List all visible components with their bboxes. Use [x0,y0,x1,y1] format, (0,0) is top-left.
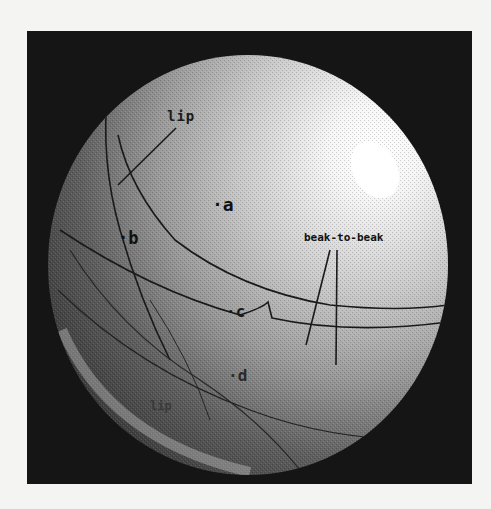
sphere-figure [0,0,491,509]
label-point-b: ·b [118,230,138,247]
label-point-a: ·a [212,196,234,214]
label-beak-to-beak: beak-to-beak [304,232,383,243]
label-lip-top: lip [167,109,195,123]
beak-pointer-2 [336,250,337,365]
label-point-c: ·c [226,304,245,320]
label-lip-bottom: lip [150,400,172,412]
label-point-d: ·d [228,368,247,384]
